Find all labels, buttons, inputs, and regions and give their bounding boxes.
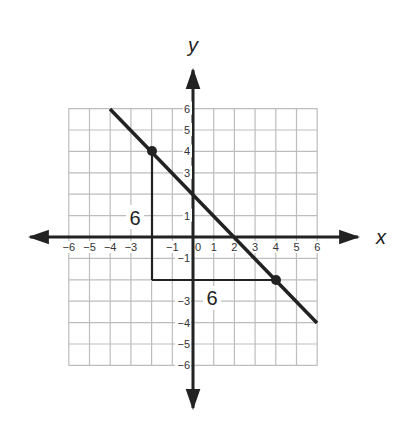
x-tick-label: −5: [83, 241, 96, 253]
x-tick-label: 6: [314, 241, 320, 253]
x-tick-label: 5: [293, 241, 299, 253]
rise-label: 6: [129, 207, 140, 229]
y-tick-label: 1: [184, 210, 190, 222]
y-tick-label: −4: [177, 317, 190, 329]
x-tick-label: 0: [195, 241, 201, 253]
y-tick-label: 4: [184, 145, 190, 157]
x-tick-label: 4: [273, 241, 279, 253]
y-tick-label: 5: [184, 124, 190, 136]
y-tick-label: 6: [184, 103, 190, 115]
point-a: [147, 146, 157, 156]
x-tick-label: −3: [125, 241, 138, 253]
y-axis-label: y: [186, 34, 199, 56]
x-tick-labels: −6−5−4−3−10123456: [60, 241, 321, 253]
point-b: [271, 275, 281, 285]
x-tick-label: 3: [252, 241, 258, 253]
x-tick-label: −4: [104, 241, 117, 253]
x-tick-label: 2: [231, 241, 237, 253]
x-tick-label: −1: [166, 241, 179, 253]
y-tick-label: −5: [177, 338, 190, 350]
x-tick-label: 1: [211, 241, 217, 253]
run-label: 6: [206, 287, 217, 309]
coordinate-plane: −6−5−4−3−10123456 65431−1−3−4−5−6 6 6 y …: [0, 0, 406, 435]
y-tick-label: −6: [177, 359, 190, 371]
x-tick-label: −6: [63, 241, 76, 253]
y-tick-label: −3: [177, 295, 190, 307]
y-tick-label: −1: [177, 252, 190, 264]
x-axis-label: x: [375, 226, 387, 248]
y-tick-label: 3: [184, 167, 190, 179]
